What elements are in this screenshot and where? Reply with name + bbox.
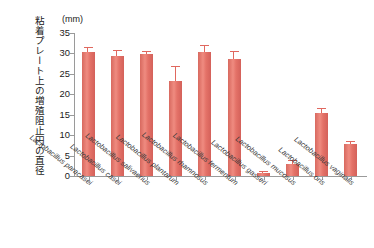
error-bar-cap xyxy=(230,51,239,52)
y-tick-label: 20 xyxy=(46,88,70,99)
error-bar-cap xyxy=(317,108,326,109)
error-bar-cap xyxy=(200,45,209,46)
error-bar-cap xyxy=(113,50,122,51)
bar-chart-figure: 粘着プレート上の増殖阻止円の直径 (mm) 05101520253035 Lac… xyxy=(0,0,374,248)
y-axis-unit-label: (mm) xyxy=(62,14,83,24)
y-tick-label: 30 xyxy=(46,47,70,58)
y-tick-label: 15 xyxy=(46,109,70,120)
error-bar-stem xyxy=(233,52,234,59)
error-bar-stem xyxy=(262,172,263,173)
error-bar-cap xyxy=(142,51,151,52)
error-bar-cap xyxy=(84,47,93,48)
bar-group xyxy=(337,33,366,176)
error-bar-stem xyxy=(87,48,88,52)
x-axis-tick-labels: Lactobacillus paracaseiLactobacillus cas… xyxy=(0,176,374,248)
error-bar-stem xyxy=(350,142,351,144)
bar xyxy=(344,144,357,176)
y-tick-label: 10 xyxy=(46,129,70,140)
y-tick-label: 25 xyxy=(46,68,70,79)
error-bar-cap xyxy=(171,66,180,67)
y-tick-label: 35 xyxy=(46,27,70,38)
error-bar-stem xyxy=(116,51,117,56)
error-bar-stem xyxy=(175,67,176,82)
error-bar-stem xyxy=(321,109,322,112)
y-axis-title: 粘着プレート上の増殖阻止円の直径 xyxy=(28,16,44,194)
error-bar-stem xyxy=(204,46,205,53)
error-bar-stem xyxy=(146,52,147,54)
error-bar-cap xyxy=(346,141,355,142)
